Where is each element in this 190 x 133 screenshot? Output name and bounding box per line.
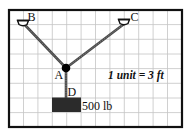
label-A: A [55,68,64,82]
anchor-C-icon [118,20,130,25]
weight-label: 500 lb [82,99,112,113]
scale-label: 1 unit = 3 ft [108,69,165,82]
label-B: B [28,10,36,24]
label-D: D [68,85,77,99]
cable-AC [66,24,124,68]
weight-block [52,98,81,113]
label-C: C [131,10,139,24]
cable-diagram: B C A D 500 lb 1 unit = 3 ft [0,0,190,133]
cable-AB [24,24,66,68]
